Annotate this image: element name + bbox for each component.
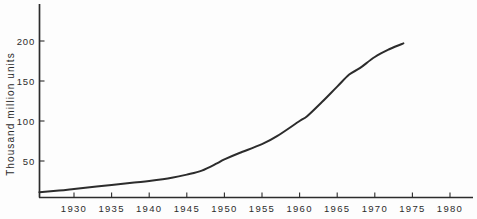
data-line: [39, 43, 403, 192]
x-tick-label: 1950: [211, 203, 237, 214]
x-axis-ticks: 1930193519401945195019551960196519701975…: [61, 193, 463, 215]
y-tick-label: 50: [23, 156, 35, 167]
line-chart: 1930193519401945195019551960196519701975…: [0, 0, 477, 219]
x-tick-label: 1955: [249, 203, 275, 214]
x-tick-label: 1935: [98, 203, 124, 214]
x-tick-label: 1945: [174, 203, 200, 214]
x-tick-label: 1970: [362, 203, 388, 214]
x-tick-label: 1960: [286, 203, 312, 214]
x-tick-label: 1975: [399, 203, 425, 214]
y-tick-label: 100: [17, 116, 35, 127]
chart-figure: 1930193519401945195019551960196519701975…: [0, 0, 477, 219]
x-tick-label: 1930: [61, 203, 87, 214]
x-tick-label: 1980: [437, 203, 463, 214]
x-tick-label: 1940: [136, 203, 162, 214]
y-tick-label: 150: [17, 76, 35, 87]
y-axis-title: Thousand million units: [5, 52, 16, 176]
x-tick-label: 1965: [324, 203, 350, 214]
y-tick-label: 200: [17, 36, 35, 47]
